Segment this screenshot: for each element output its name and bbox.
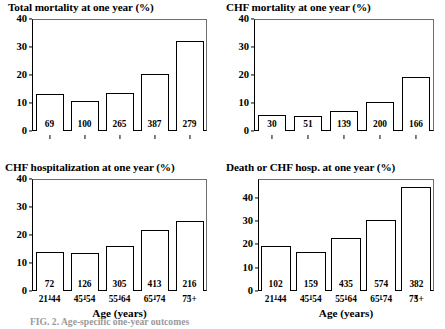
bar-count-label: 305 xyxy=(112,280,126,289)
bar-item: 574 xyxy=(364,179,399,291)
y-tick-label: 30 xyxy=(238,42,249,53)
bar-count-label: 435 xyxy=(339,280,353,289)
bar-count-label: 69 xyxy=(45,120,54,129)
bar-count-label: 102 xyxy=(269,280,283,289)
y-tick-label: 10 xyxy=(242,262,253,273)
x-axis-ticks xyxy=(254,131,434,135)
y-tick-label: 10 xyxy=(16,98,27,109)
x-axis-ticks: 21-44 45-54 55-64 65-74 75+ xyxy=(32,291,207,304)
bar-count-label: 265 xyxy=(112,120,126,129)
bar: 265 xyxy=(106,93,134,131)
bar-item: 413 xyxy=(137,179,172,291)
plot-area: 40 30 20 10 0 30 51 139 200 166 xyxy=(254,19,434,131)
bar-count-label: 200 xyxy=(373,120,387,129)
bar-count-label: 279 xyxy=(182,120,196,129)
panel-title: Total mortality at one year (%) xyxy=(8,1,222,13)
x-axis-ticks xyxy=(32,131,207,135)
panel-title: CHF mortality at one year (%) xyxy=(226,1,445,13)
figure-caption-text: FIG. 2. Age-specific one-year outcomes xyxy=(30,317,189,327)
bar-count-label: 159 xyxy=(304,280,318,289)
bar-count-label: 51 xyxy=(303,120,312,129)
bar-item: 159 xyxy=(293,179,328,291)
x-axis-ticks: 21-44 45-54 55-64 65-74 75+ xyxy=(258,291,434,304)
bar: 139 xyxy=(330,111,358,131)
bar-series: 72 126 305 413 216 xyxy=(32,179,207,291)
y-tick-label: 30 xyxy=(16,42,27,53)
panel-death-or-chf-hosp: Death or CHF hosp. at one year (%) 40 30… xyxy=(222,160,445,317)
panel-title: CHF hospitalization at one year (%) xyxy=(5,161,222,173)
panel-chf-mortality: CHF mortality at one year (%) 40 30 20 1… xyxy=(222,0,445,160)
panel-title: Death or CHF hosp. at one year (%) xyxy=(226,161,445,173)
bar-item: 69 xyxy=(32,19,67,131)
y-tick-label: 0 xyxy=(248,286,253,297)
bar: 30 xyxy=(258,115,286,131)
y-tick-label: 10 xyxy=(16,258,27,269)
bar: 279 xyxy=(176,41,204,131)
bar-count-label: 30 xyxy=(267,120,276,129)
bar: 435 xyxy=(331,238,361,291)
bar: 69 xyxy=(36,94,64,131)
plot-area: 40 30 20 10 0 69 100 265 387 279 xyxy=(32,19,207,131)
bar-item: 51 xyxy=(290,19,326,131)
bar-count-label: 139 xyxy=(337,120,351,129)
figure-caption: FIG. 2. Age-specific one-year outcomes xyxy=(0,317,445,329)
y-tick-label: 20 xyxy=(16,230,27,241)
bar: 126 xyxy=(71,253,99,291)
bar: 159 xyxy=(296,252,326,291)
bar: 102 xyxy=(261,246,291,291)
bar-item: 102 xyxy=(258,179,293,291)
panel-total-mortality: Total mortality at one year (%) 40 30 20… xyxy=(0,0,222,160)
bar-count-label: 413 xyxy=(147,280,161,289)
bar: 216 xyxy=(176,221,204,291)
bar-item: 305 xyxy=(102,179,137,291)
y-tick-label: 30 xyxy=(242,216,253,227)
y-tick-label: 20 xyxy=(16,70,27,81)
bar-item: 100 xyxy=(67,19,102,131)
bar-series: 102 159 435 574 382 xyxy=(258,179,434,291)
bar-item: 265 xyxy=(102,19,137,131)
bar-item: 382 xyxy=(399,179,434,291)
bar-item: 30 xyxy=(254,19,290,131)
bar-item: 387 xyxy=(137,19,172,131)
y-tick-label: 0 xyxy=(22,286,27,297)
bar-count-label: 216 xyxy=(182,280,196,289)
bar-item: 166 xyxy=(398,19,434,131)
y-tick-label: 40 xyxy=(16,174,27,185)
bar-count-label: 382 xyxy=(409,280,423,289)
plot-area: 40 30 20 10 0 102 159 435 574 382 21-44 … xyxy=(258,179,434,291)
bar: 413 xyxy=(141,230,169,291)
bar-series: 30 51 139 200 166 xyxy=(254,19,434,131)
bar-count-label: 100 xyxy=(77,120,91,129)
bar-count-label: 166 xyxy=(409,120,423,129)
bar-item: 216 xyxy=(172,179,207,291)
y-tick-label: 40 xyxy=(16,14,27,25)
bar-count-label: 72 xyxy=(45,280,54,289)
bar: 200 xyxy=(366,102,394,131)
bar-item: 72 xyxy=(32,179,67,291)
bar: 387 xyxy=(141,74,169,131)
y-tick-label: 20 xyxy=(242,239,253,250)
y-tick-label: 30 xyxy=(16,202,27,213)
panel-chf-hospitalization: CHF hospitalization at one year (%) 40 3… xyxy=(0,160,222,317)
bar-count-label: 387 xyxy=(147,120,161,129)
bar: 72 xyxy=(36,252,64,291)
bar-item: 279 xyxy=(172,19,207,131)
figure-four-panel-bar-chart: Total mortality at one year (%) 40 30 20… xyxy=(0,0,445,329)
panel-grid: Total mortality at one year (%) 40 30 20… xyxy=(0,0,445,317)
y-tick-label: 40 xyxy=(238,14,249,25)
bar: 166 xyxy=(402,77,430,131)
bar-item: 139 xyxy=(326,19,362,131)
y-tick-label: 10 xyxy=(238,98,249,109)
bar-item: 435 xyxy=(328,179,363,291)
y-tick-label: 40 xyxy=(242,192,253,203)
y-tick-label: 0 xyxy=(244,126,249,137)
bar-count-label: 574 xyxy=(374,280,388,289)
bar: 100 xyxy=(71,101,99,131)
bar: 574 xyxy=(366,220,396,291)
bar: 382 xyxy=(401,187,431,291)
bar-item: 200 xyxy=(362,19,398,131)
y-tick-label: 20 xyxy=(238,70,249,81)
bar-count-label: 126 xyxy=(77,280,91,289)
plot-area: 40 30 20 10 0 72 126 305 413 216 21-44 4… xyxy=(32,179,207,291)
bar: 51 xyxy=(294,116,322,131)
